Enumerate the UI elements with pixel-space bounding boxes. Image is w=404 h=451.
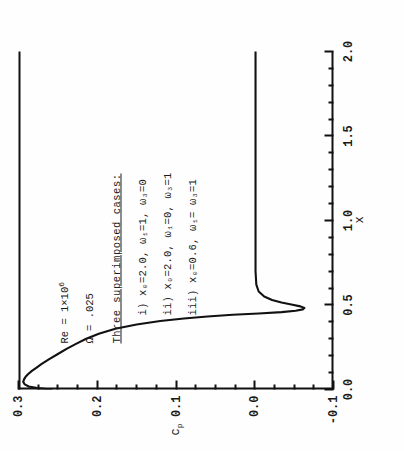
rotated-figure-wrapper: 0.00.51.01.52.0-0.10.00.10.20.3 x cp Re …	[0, 0, 404, 451]
x-tick-label: 2.0	[341, 40, 355, 62]
case-item: ii) x₀=2.0, ω₁=0, ω₃=1	[161, 172, 173, 315]
case-label: ii)	[161, 295, 173, 315]
y-tick-label: 0.2	[90, 395, 104, 443]
case-item: i) x₀=2.0, ω₁=1, ω₃=0	[136, 172, 148, 315]
annotation-reynolds: Re = 1×106	[57, 281, 71, 343]
case-label: iii)	[186, 289, 198, 315]
x-tick-label: 0.5	[341, 294, 355, 316]
y-axis-title-base: c	[168, 428, 182, 435]
reynolds-text: Re = 1×10	[59, 286, 71, 343]
x-tick-label: 0.0	[341, 378, 355, 400]
case-list: i) x₀=2.0, ω₁=1, ω₃=0 ii) x₀=2.0, ω₁=0, …	[136, 172, 211, 315]
y-tick-label: 0.1	[169, 395, 183, 443]
x-axis-title: x	[352, 216, 366, 223]
case-text: x₀=2.0, ω₁=0, ω₃=1	[161, 172, 173, 289]
y-tick-label: -0.1	[326, 395, 340, 443]
case-text: x₀=2.0, ω₁=1, ω₃=0	[136, 178, 148, 295]
annotation-omega: Ω = .025	[84, 281, 95, 343]
reynolds-exponent: 6	[56, 281, 65, 286]
case-label: i)	[136, 302, 148, 315]
case-item: iii) x₀=0.6, ω₁= ω₃=1	[186, 172, 198, 315]
x-tick-label: 1.5	[341, 125, 355, 147]
note-title: Three superimposed cases:	[110, 173, 122, 343]
y-axis-title: cp	[168, 423, 183, 435]
y-tick-label: 0.3	[11, 395, 25, 443]
omega-text: Ω = .025	[83, 293, 95, 343]
parameter-annotations: Re = 1×106 Ω = .025	[57, 281, 108, 343]
y-tick-label: 0.0	[247, 395, 261, 443]
y-axis-title-subscript: p	[174, 423, 183, 428]
case-text: x₀=0.6, ω₁= ω₃=1	[186, 178, 198, 282]
figure-page: 0.00.51.01.52.0-0.10.00.10.20.3 x cp Re …	[0, 0, 404, 451]
